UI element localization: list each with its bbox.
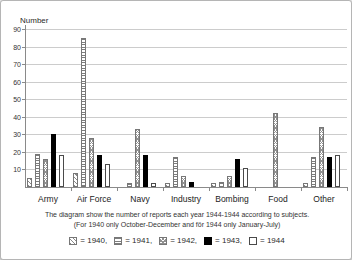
white-square-icon: [249, 237, 257, 245]
x-category-label-other: Other: [301, 194, 347, 204]
legend: = 1940,= 1941,= 1942,= 1943,= 1944: [1, 236, 352, 245]
bar-bombing-1942: [227, 176, 232, 187]
legend-item-1942: = 1942,: [159, 236, 197, 245]
y-tick-label-50: 50: [7, 96, 21, 103]
bar-other-1941: [311, 157, 316, 187]
gridline-60: [25, 82, 347, 83]
bar-bombing-1944: [243, 168, 248, 187]
legend-item-1940: = 1940,: [69, 236, 107, 245]
x-tick-2: [117, 188, 118, 191]
bar-navy-1944: [151, 183, 156, 187]
bar-army-1944: [59, 155, 64, 187]
x-category-label-navy: Navy: [117, 194, 163, 204]
x-tick-7: [347, 188, 348, 191]
y-tick-label-10: 10: [7, 166, 21, 173]
x-category-label-industry: Industry: [163, 194, 209, 204]
bar-army-1943: [51, 134, 56, 187]
x-category-label-food: Food: [255, 194, 301, 204]
y-axis-title: Number: [20, 16, 48, 25]
bar-food-1942: [273, 113, 278, 187]
x-axis-line: [25, 187, 348, 188]
gridline-20: [25, 152, 347, 153]
bar-air-force-1944: [105, 164, 110, 187]
x-tick-3: [163, 188, 164, 191]
chart-frame: Number 908070605040302010ArmyAir ForceNa…: [0, 0, 352, 260]
bar-army-1940: [27, 178, 32, 187]
bar-army-1941: [35, 154, 40, 187]
bar-other-1940: [303, 183, 308, 187]
x-category-label-bombing: Bombing: [209, 194, 255, 204]
y-tick-label-90: 90: [7, 26, 21, 33]
bar-industry-1940: [165, 183, 170, 187]
gridline-10: [25, 169, 347, 170]
bar-other-1943: [327, 157, 332, 187]
y-tick-label-30: 30: [7, 131, 21, 138]
bar-navy-1943: [143, 155, 148, 187]
x-category-label-army: Army: [25, 194, 71, 204]
bar-army-1942: [43, 159, 48, 187]
x-tick-6: [301, 188, 302, 191]
bar-industry-1943: [189, 182, 194, 187]
x-category-label-air-force: Air Force: [71, 194, 117, 204]
y-tick-label-40: 40: [7, 114, 21, 121]
y-axis-line: [25, 25, 26, 187]
legend-label: = 1944: [260, 236, 285, 245]
x-tick-5: [255, 188, 256, 191]
x-tick-1: [71, 188, 72, 191]
legend-item-1941: = 1941,: [114, 236, 152, 245]
gridline-70: [25, 64, 347, 65]
caption-line-1: The diagram show the number of reports e…: [1, 211, 352, 218]
bar-bombing-1941: [219, 182, 224, 187]
y-tick-label-60: 60: [7, 79, 21, 86]
black-square-icon: [204, 237, 212, 245]
y-tick-label-20: 20: [7, 149, 21, 156]
crosshatch-square-icon: [159, 237, 167, 245]
bar-other-1942: [319, 127, 324, 187]
legend-label: = 1941,: [125, 236, 152, 245]
y-tick-label-80: 80: [7, 44, 21, 51]
bar-air-force-1943: [97, 155, 102, 187]
legend-item-1943: = 1943,: [204, 236, 242, 245]
bar-industry-1941: [173, 157, 178, 187]
bar-bombing-1940: [211, 183, 216, 187]
bar-air-force-1941: [81, 38, 86, 187]
caption-line-2: (For 1940 only October-December and för …: [1, 221, 352, 228]
bar-air-force-1940: [73, 173, 78, 187]
horizontal-lines-square-icon: [114, 237, 122, 245]
x-tick-4: [209, 188, 210, 191]
legend-label: = 1943,: [215, 236, 242, 245]
legend-label: = 1942,: [170, 236, 197, 245]
gridline-90: [25, 29, 347, 30]
bar-other-1944: [335, 155, 340, 187]
gridline-30: [25, 134, 347, 135]
bar-industry-1942: [181, 176, 186, 187]
diagonal-hatch-square-icon: [69, 237, 77, 245]
bar-bombing-1943: [235, 159, 240, 187]
y-tick-label-70: 70: [7, 61, 21, 68]
bar-air-force-1942: [89, 138, 94, 187]
legend-label: = 1940,: [80, 236, 107, 245]
bar-navy-1941: [127, 183, 132, 187]
bar-navy-1942: [135, 129, 140, 187]
legend-item-1944: = 1944: [249, 236, 285, 245]
gridline-50: [25, 99, 347, 100]
gridline-80: [25, 47, 347, 48]
gridline-40: [25, 117, 347, 118]
